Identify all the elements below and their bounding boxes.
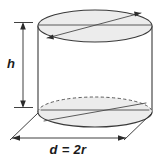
diameter-arrow-left xyxy=(12,135,20,141)
height-label: h xyxy=(7,56,15,71)
cylinder-figure: Cylinder with height and diameter dimens… xyxy=(0,0,165,159)
height-arrow-down xyxy=(20,101,26,109)
height-arrow-up xyxy=(20,22,26,30)
bottom-ellipse-face xyxy=(38,97,152,127)
diameter-arrow-right xyxy=(118,135,126,141)
top-ellipse-face xyxy=(38,10,152,42)
height-dimension: h xyxy=(7,22,33,108)
diameter-left-extension xyxy=(10,113,38,140)
diameter-label: d = 2r xyxy=(50,142,87,157)
cylinder-diagram-svg: Cylinder with height and diameter dimens… xyxy=(0,0,165,159)
